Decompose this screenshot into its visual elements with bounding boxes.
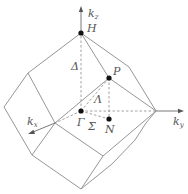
label-n: N: [104, 123, 115, 136]
kz-label: kz: [88, 7, 99, 21]
point-n: [106, 116, 111, 121]
label-delta: Δ: [70, 60, 79, 73]
label-sigma: Σ: [87, 120, 96, 133]
ky-label: ky: [173, 115, 185, 129]
point-gamma: [78, 108, 83, 113]
label-lambda: Λ: [93, 93, 102, 106]
kx-label: kx: [27, 115, 38, 129]
sigma-line: [81, 111, 109, 119]
ky-arrow-icon: [178, 109, 184, 113]
point-p: [106, 75, 111, 80]
labels: kz ky kx H P Γ N Δ Λ Σ: [27, 7, 185, 136]
kx-arrow-icon: [28, 130, 35, 134]
kz-arrow-icon: [79, 6, 83, 12]
label-gamma: Γ: [76, 116, 85, 129]
axes: [28, 6, 184, 134]
symmetry-points: [78, 30, 111, 121]
label-h: H: [86, 22, 97, 35]
point-h: [78, 30, 83, 35]
brillouin-zone-diagram: kz ky kx H P Γ N Δ Λ Σ: [0, 0, 188, 194]
label-p: P: [112, 65, 121, 78]
